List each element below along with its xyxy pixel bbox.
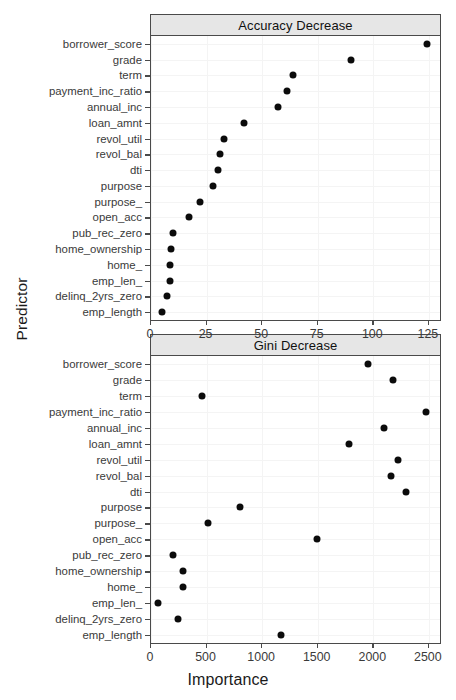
y-axis-tick-label: emp_len_ [0, 597, 142, 609]
gridline-horizontal [151, 312, 440, 313]
data-point [274, 104, 281, 111]
x-axis-tick [206, 643, 207, 648]
y-axis-tick [145, 571, 150, 572]
gridline-horizontal [151, 296, 440, 297]
gridline-horizontal [151, 44, 440, 45]
data-point [168, 246, 175, 253]
y-axis-tick [145, 396, 150, 397]
data-point [198, 392, 205, 399]
x-axis-tick-label: 1500 [303, 650, 331, 664]
x-axis-tick [150, 320, 151, 325]
gridline-vertical [373, 36, 374, 320]
y-axis-tick [145, 186, 150, 187]
y-axis-tick [145, 107, 150, 108]
data-point [216, 151, 223, 158]
gridline-horizontal [151, 265, 440, 266]
x-axis-tick-label: 75 [310, 327, 324, 341]
gridline-horizontal [151, 396, 440, 397]
y-axis-tick-label: pub_rec_zero [0, 227, 142, 239]
y-axis-tick [145, 523, 150, 524]
gridline-horizontal [151, 555, 440, 556]
gridline-horizontal [151, 539, 440, 540]
gridline-horizontal [151, 233, 440, 234]
y-axis-tick [145, 233, 150, 234]
gridline-horizontal [151, 217, 440, 218]
y-axis-tick-label: annual_inc [0, 422, 142, 434]
y-axis-tick [145, 539, 150, 540]
gridline-horizontal [151, 186, 440, 187]
x-axis-tick [261, 320, 262, 325]
y-axis-tick-label: emp_length [0, 629, 142, 641]
x-axis-tick-label: 0 [147, 650, 154, 664]
x-axis-tick-label: 2500 [414, 650, 442, 664]
data-point [204, 520, 211, 527]
panel-title-top: Accuracy Decrease [238, 18, 352, 33]
plot-area-top [150, 36, 441, 321]
x-axis-tick [206, 320, 207, 325]
x-axis-tick-label: 125 [418, 327, 439, 341]
gridline-horizontal [151, 249, 440, 250]
x-axis-title: Importance [0, 671, 456, 689]
gridline-vertical [207, 36, 208, 320]
x-axis-tick-label: 2000 [359, 650, 387, 664]
panel-title-strip-bottom: Gini Decrease [150, 334, 441, 356]
y-axis-tick [145, 587, 150, 588]
data-point [345, 440, 352, 447]
y-axis-tick-label: loan_amnt [0, 438, 142, 450]
x-axis-tick [150, 643, 151, 648]
gridline-horizontal [151, 587, 440, 588]
data-point [159, 309, 166, 316]
data-point [196, 198, 203, 205]
y-axis-tick [145, 154, 150, 155]
gridline-vertical [318, 36, 319, 320]
gridline-vertical [262, 356, 263, 643]
y-axis-tick [145, 91, 150, 92]
y-axis-tick [145, 380, 150, 381]
gridline-horizontal [151, 154, 440, 155]
gridline-horizontal [151, 60, 440, 61]
y-axis-tick-label: purpose_ [0, 517, 142, 529]
x-axis-tick-label: 50 [254, 327, 268, 341]
y-axis-tick-label: revol_bal [0, 148, 142, 160]
x-axis-tick [372, 320, 373, 325]
y-axis-tick-label: emp_len_ [0, 275, 142, 287]
data-point [170, 552, 177, 559]
data-point [166, 277, 173, 284]
plot-area-bottom [150, 356, 441, 644]
y-axis-tick-label: open_acc [0, 533, 142, 545]
data-point [290, 72, 297, 79]
gridline-horizontal [151, 364, 440, 365]
y-axis-tick [145, 507, 150, 508]
gridline-horizontal [151, 619, 440, 620]
y-axis-tick [145, 123, 150, 124]
y-axis-tick-label: revol_bal [0, 470, 142, 482]
gridline-horizontal [151, 281, 440, 282]
y-axis-tick [145, 217, 150, 218]
y-axis-tick-label: purpose_ [0, 196, 142, 208]
data-point [221, 135, 228, 142]
y-axis-tick-label: dti [0, 486, 142, 498]
data-point [423, 40, 430, 47]
gridline-horizontal [151, 412, 440, 413]
y-axis-tick-label: payment_inc_ratio [0, 85, 142, 97]
x-axis-tick-label: 0 [147, 327, 154, 341]
gridline-horizontal [151, 444, 440, 445]
x-axis-tick-label: 25 [199, 327, 213, 341]
gridline-vertical [429, 356, 430, 643]
gridline-horizontal [151, 428, 440, 429]
y-axis-tick-label: dti [0, 164, 142, 176]
x-axis-tick [261, 643, 262, 648]
data-point [348, 56, 355, 63]
gridline-horizontal [151, 492, 440, 493]
y-axis-tick [145, 476, 150, 477]
gridline-horizontal [151, 91, 440, 92]
data-point [210, 182, 217, 189]
gridline-vertical [151, 356, 152, 643]
gridline-horizontal [151, 523, 440, 524]
x-axis-tick [372, 643, 373, 648]
gridline-horizontal [151, 635, 440, 636]
y-axis-tick-label: delinq_2yrs_zero [0, 290, 142, 302]
gridline-horizontal [151, 476, 440, 477]
y-axis-tick [145, 603, 150, 604]
data-point [422, 408, 429, 415]
